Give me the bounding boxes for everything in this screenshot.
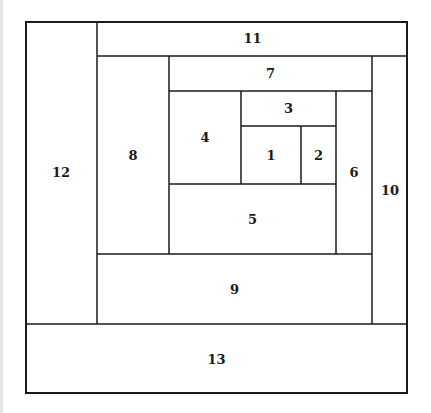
region-label: 2 xyxy=(314,148,323,163)
region-label: 13 xyxy=(207,352,225,367)
region-13: 13 xyxy=(25,324,408,394)
region-label: 1 xyxy=(266,148,275,163)
region-1: 1 xyxy=(241,126,301,184)
region-label: 3 xyxy=(284,101,293,116)
region-label: 6 xyxy=(349,165,358,180)
partition-diagram: 12345678910111213 xyxy=(0,0,431,413)
region-label: 7 xyxy=(266,66,275,81)
region-label: 8 xyxy=(128,148,137,163)
region-7: 7 xyxy=(169,56,372,91)
region-4: 4 xyxy=(169,91,241,184)
region-label: 5 xyxy=(248,212,257,227)
region-9: 9 xyxy=(97,254,372,324)
region-label: 10 xyxy=(381,183,399,198)
region-label: 12 xyxy=(52,165,70,180)
region-10: 10 xyxy=(372,56,408,324)
region-12: 12 xyxy=(25,21,97,324)
region-6: 6 xyxy=(336,91,372,254)
region-2: 2 xyxy=(301,126,336,184)
region-11: 11 xyxy=(97,21,408,56)
region-5: 5 xyxy=(169,184,336,254)
region-label: 9 xyxy=(230,282,239,297)
region-label: 11 xyxy=(243,31,261,46)
region-8: 8 xyxy=(97,56,169,254)
region-label: 4 xyxy=(200,130,209,145)
region-3: 3 xyxy=(241,91,336,126)
